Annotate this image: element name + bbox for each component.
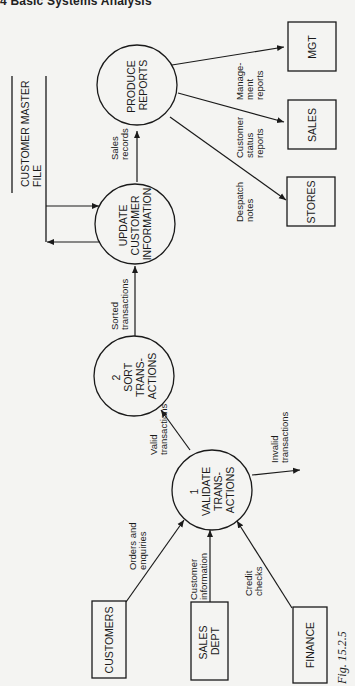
process-label: UPDATE	[117, 205, 129, 247]
flow-label-sales-records: Sales records	[109, 128, 130, 160]
svg-text:PRODUCE REPORTS: PRODUCE REPORTS	[125, 57, 149, 112]
svg-text:1 VALIDATE TRANS-: 1 VALIDATE TRANS- ACTIONS	[188, 464, 236, 516]
entity-label: MGT	[306, 35, 318, 59]
svg-text:CUSTOMER MASTER FILE: CUSTOMER MASTER FILE	[19, 78, 43, 188]
flow-despatch-line	[170, 117, 286, 200]
entity-label: SALES	[306, 108, 318, 142]
process-label: REPORTS	[137, 60, 149, 111]
flow-customer-status-line	[178, 93, 284, 122]
process-label: TRANS-	[134, 357, 146, 397]
entity-stores[interactable]: STORES	[287, 177, 335, 226]
entity-mgt[interactable]: MGT	[288, 22, 336, 71]
flow-label-orders-and-enquiries: Orders and enquiries	[127, 520, 148, 570]
flow-label-management-reports: Manage- ment reports	[234, 60, 265, 100]
flow-label-sorted-transactions: Sorted transactions	[109, 279, 130, 330]
svg-text:SALES DEPT: SALES DEPT	[197, 623, 221, 660]
flow-label-customer-status-reports: Customer status reports	[234, 114, 265, 158]
flow-label-despatch-notes: Despatch notes	[234, 179, 255, 222]
flow-invalid-line	[252, 470, 300, 475]
process-label: ACTIONS	[224, 467, 236, 514]
process-label: ACTIONS	[146, 353, 158, 400]
svg-text:UPDATE CUSTOMER IN: UPDATE CUSTOMER INFORMATION	[117, 188, 153, 261]
flow-management-line	[172, 47, 284, 65]
figure-caption: Fig. 15.2.5	[335, 631, 349, 685]
process-1-validate-transactions[interactable]: 1 VALIDATE TRANS- ACTIONS	[172, 450, 252, 530]
flow-label-customer-information: Customer information	[188, 553, 209, 600]
entity-sales-dept[interactable]: SALES DEPT	[191, 602, 228, 680]
svg-text:2 SORT TRANS-: 2 SORT TRANS- ACTIONS	[110, 353, 158, 400]
svg-text:SALES: SALES	[306, 108, 318, 142]
process-label: INFORMATION	[141, 188, 153, 261]
entity-customers[interactable]: CUSTOMERS	[92, 601, 126, 678]
flow-label-invalid-transactions: Invalid transactions	[269, 412, 290, 463]
svg-text:FINANCE: FINANCE	[304, 622, 316, 668]
data-flow-diagram: CUSTOMER MASTER FILE PRODUCE REPORTS UPD…	[0, 0, 355, 686]
data-store-label: FILE	[31, 165, 43, 187]
data-store-label: CUSTOMER MASTER	[19, 80, 31, 187]
entity-label: STORES	[305, 181, 317, 224]
entity-sales[interactable]: SALES	[288, 100, 336, 149]
entity-label: FINANCE	[304, 622, 316, 668]
process-number: 2	[110, 374, 122, 380]
process-label: PRODUCE	[125, 60, 137, 113]
entity-label: SALES	[197, 626, 209, 660]
process-label: SORT	[122, 362, 134, 392]
entity-finance[interactable]: FINANCE	[293, 607, 327, 683]
process-label: CUSTOMER	[129, 195, 141, 255]
flow-label-valid-transactions: Valid transactions	[148, 404, 169, 455]
entity-label: DEPT	[209, 626, 221, 655]
entity-label: CUSTOMERS	[103, 607, 115, 674]
data-store-customer-master-file[interactable]: CUSTOMER MASTER FILE	[12, 76, 46, 242]
svg-text:MGT: MGT	[306, 35, 318, 59]
svg-text:CUSTOMERS: CUSTOMERS	[103, 607, 115, 674]
svg-text:STORES: STORES	[305, 181, 317, 224]
process-produce-reports[interactable]: PRODUCE REPORTS	[97, 45, 177, 125]
process-update-customer-information[interactable]: UPDATE CUSTOMER INFORMATION	[95, 184, 175, 264]
flow-label-credit-checks: Credit checks	[243, 566, 264, 596]
process-label: VALIDATE	[200, 467, 212, 516]
process-number: 1	[188, 488, 200, 494]
process-label: TRANS-	[212, 471, 224, 511]
